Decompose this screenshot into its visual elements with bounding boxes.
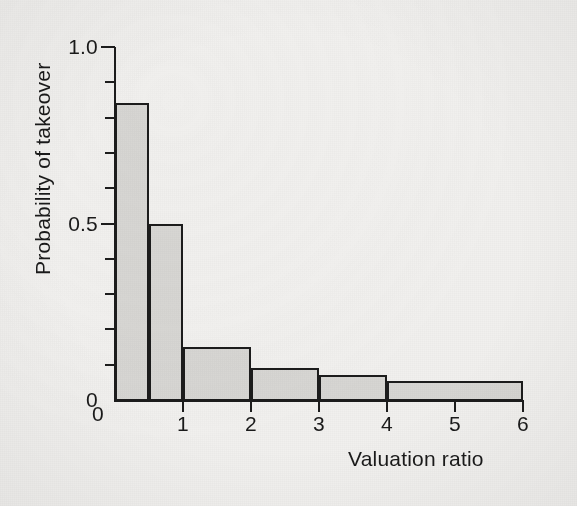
bar — [319, 375, 387, 401]
bar — [115, 103, 149, 401]
bar — [251, 368, 319, 401]
bar — [183, 347, 251, 401]
bar — [149, 224, 183, 402]
bar — [387, 381, 523, 401]
bar-series — [0, 0, 577, 506]
figure-histogram-takeover-probability: 00.51.0 Probability of takeover 123456 0… — [0, 0, 577, 506]
